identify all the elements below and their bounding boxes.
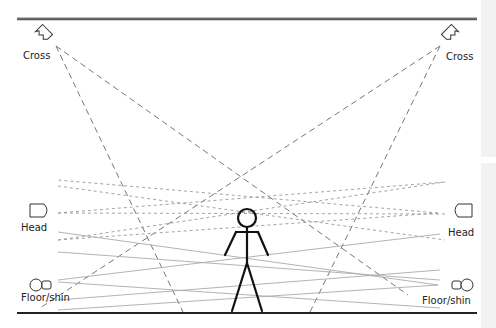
floor-left-label: Floor/shin: [21, 292, 70, 303]
head-light-icon-left[interactable]: [30, 204, 47, 217]
floor-right-label: Floor/shin: [422, 295, 471, 306]
cross-light-icon-left[interactable]: [36, 25, 53, 42]
head-right-label: Head: [448, 227, 474, 238]
cross-beams: [40, 46, 440, 312]
floor-light-icon-right[interactable]: [452, 279, 473, 291]
truss-bar: [17, 18, 477, 19]
lighting-diagram: Cross Cross Head Head Floor/shin Floor/s…: [0, 0, 496, 328]
head-light-icon-right[interactable]: [455, 204, 472, 217]
cross-right-label: Cross: [446, 51, 473, 62]
floor-light-icon-left[interactable]: [30, 279, 51, 291]
cross-light-icon-right[interactable]: [442, 25, 459, 42]
diagram-canvas: [0, 0, 496, 328]
head-left-label: Head: [21, 222, 47, 233]
cross-left-label: Cross: [23, 50, 50, 61]
